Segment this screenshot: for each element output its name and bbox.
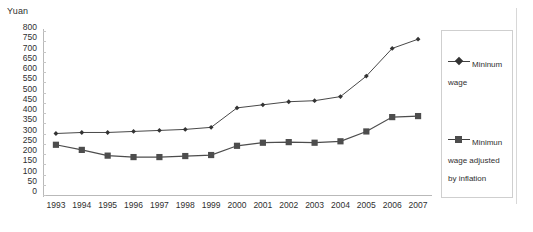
data-point-square [182,153,188,159]
series-line [56,39,418,133]
data-point-square [363,128,369,134]
chart-figure: Yuan 80075070065060055050045040035030025… [0,0,533,232]
legend-entry-minimum-wage[interactable]: Mininum wage [448,53,510,89]
data-point-diamond [79,130,84,135]
square-marker-icon [448,135,470,143]
data-point-diamond [105,130,110,135]
series-minimum-wage-adjusted [53,113,421,160]
diamond-marker-icon [448,57,470,65]
data-point-square [53,142,59,148]
legend-label: Minimun wage adjusted by inflation [448,138,502,183]
data-point-square [156,154,162,160]
data-point-diamond [131,129,136,134]
data-point-square [389,114,395,120]
data-point-diamond [416,37,421,42]
figure-right-rule [516,8,517,204]
data-point-diamond [54,131,59,136]
data-point-square [312,140,318,146]
data-point-square [79,147,85,153]
data-point-square [130,154,136,160]
data-point-square [337,138,343,144]
data-point-diamond [183,127,188,132]
data-point-diamond [260,102,265,107]
data-point-square [260,140,266,146]
data-point-square [208,152,214,158]
series-minimum-wage [54,37,421,136]
chart-legend: Mininum wage Minimun wage adjusted by in… [441,30,513,198]
data-point-square [234,143,240,149]
data-point-diamond [157,128,162,133]
data-point-diamond [312,98,317,103]
data-point-square [415,113,421,119]
data-point-diamond [286,99,291,104]
data-point-square [286,139,292,145]
legend-entry-minimum-wage-adjusted[interactable]: Minimun wage adjusted by inflation [448,131,510,185]
series-line [56,116,418,157]
data-point-square [105,153,111,159]
